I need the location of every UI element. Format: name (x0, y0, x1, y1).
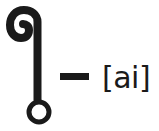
separator-dash (60, 73, 89, 80)
thai-vowel-glyph-icon (0, 0, 60, 131)
pronunciation-label: [ai] (102, 58, 150, 98)
